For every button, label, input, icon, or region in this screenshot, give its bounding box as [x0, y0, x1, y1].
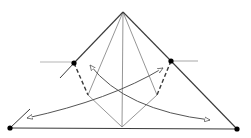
outer-edge: [123, 12, 171, 61]
arrow-left-sweep: [27, 68, 163, 118]
tick-mark: [60, 63, 74, 78]
tick-mark: [10, 109, 30, 128]
vertex-dots: [7, 58, 239, 131]
arrow-right-sweep: [90, 65, 210, 120]
tick-marks: [10, 63, 74, 128]
geometric-diagram: [0, 0, 251, 138]
diagram-canvas: [0, 0, 251, 138]
dashed-edge: [74, 63, 88, 95]
vertex-dot-bottom-left: [7, 125, 12, 130]
inner-edge: [123, 12, 157, 95]
vertex-dot-bottom-right: [234, 126, 239, 131]
inner-edge: [88, 12, 123, 95]
vertex-dot-right-mid: [168, 58, 173, 63]
outer-edge: [74, 12, 123, 63]
inner-edge: [122, 12, 123, 127]
outer-edges: [10, 12, 237, 129]
guide-lines: [0, 61, 198, 62]
inner-edges: [88, 12, 157, 127]
vertex-dot-left-mid: [71, 60, 76, 65]
inner-edge: [122, 95, 157, 127]
dashed-edge: [157, 61, 171, 95]
outer-edge: [10, 128, 237, 129]
